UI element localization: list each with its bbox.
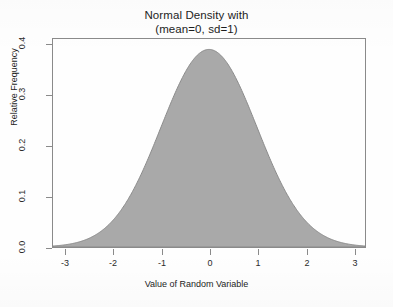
x-tick-label-5: 2 — [292, 258, 322, 268]
x-tick-mark-3 — [210, 249, 211, 255]
x-tick-label-4: 1 — [243, 258, 273, 268]
x-tick-mark-5 — [307, 249, 308, 255]
x-tick-label-1: -2 — [98, 258, 128, 268]
x-tick-mark-6 — [355, 249, 356, 255]
x-axis-title: Value of Random Variable — [0, 279, 393, 289]
x-tick-label-0: -3 — [50, 258, 80, 268]
x-tick-mark-4 — [258, 249, 259, 255]
x-axis: -3 -2 -1 0 1 2 3 Value of Random Variabl… — [0, 0, 393, 307]
normal-density-figure: Normal Density with (mean=0, sd=1) 0.0 0… — [0, 0, 393, 307]
x-tick-label-6: 3 — [340, 258, 370, 268]
x-tick-mark-0 — [65, 249, 66, 255]
x-tick-mark-2 — [162, 249, 163, 255]
x-tick-label-3: 0 — [195, 258, 225, 268]
x-tick-label-2: -1 — [147, 258, 177, 268]
x-tick-mark-1 — [113, 249, 114, 255]
